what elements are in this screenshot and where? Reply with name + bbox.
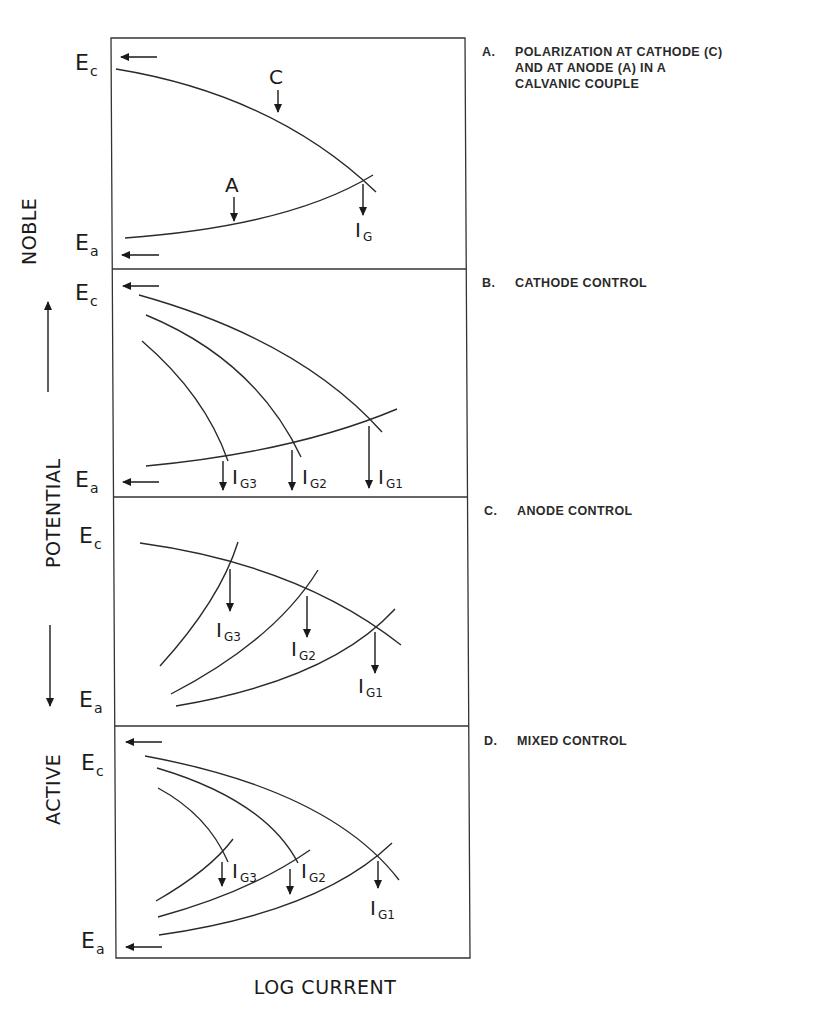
svg-text:I: I (358, 674, 364, 698)
svg-text:a: a (90, 480, 99, 496)
svg-text:I: I (355, 218, 361, 242)
ig1-label: I G1 (370, 896, 395, 922)
y-axis: NOBLE POTENTIAL ACTIVE E c E a E c E a E… (18, 50, 105, 957)
svg-text:I: I (232, 465, 238, 489)
caption-line: MIXED CONTROL (517, 733, 627, 749)
caption-panel-b: B. CATHODE CONTROL (482, 275, 647, 291)
caption-line: CATHODE CONTROL (515, 275, 647, 291)
svg-text:I: I (216, 618, 222, 642)
panel-d: I G3 I G2 I G1 (126, 742, 399, 947)
ig-label: I G (355, 218, 372, 244)
cathode-curve-2 (146, 315, 301, 457)
panel-a: C A I G (116, 57, 376, 255)
caption-panel-c: C. ANODE CONTROL (484, 503, 633, 519)
cathode-curve-3 (142, 341, 228, 461)
svg-text:E: E (79, 687, 93, 712)
svg-text:G2: G2 (299, 649, 316, 663)
svg-text:G1: G1 (366, 686, 383, 700)
anode-curve (146, 409, 397, 466)
svg-text:I: I (291, 637, 297, 661)
caption-line: POLARIZATION AT CATHODE (C) (515, 44, 723, 60)
cathode-curve-1 (145, 756, 399, 880)
svg-text:E: E (75, 230, 89, 255)
caption-line: AND AT ANODE (A) IN A (515, 60, 723, 76)
caption-line: ANODE CONTROL (517, 503, 633, 519)
svg-text:I: I (301, 859, 307, 883)
ig3-label: I G3 (232, 859, 257, 885)
ig2-label: I G2 (301, 859, 326, 885)
cathode-curve (116, 69, 376, 192)
svg-text:c: c (94, 536, 102, 552)
caption-line: CALVANIC COUPLE (515, 76, 723, 92)
caption-panel-a: A. POLARIZATION AT CATHODE (C) AND AT AN… (482, 44, 723, 92)
polarization-diagram: NOBLE POTENTIAL ACTIVE E c E a E c E a E… (0, 0, 821, 1015)
svg-text:I: I (232, 859, 238, 883)
svg-text:G3: G3 (240, 871, 257, 885)
svg-text:a: a (96, 941, 105, 957)
x-axis-label: LOG CURRENT (254, 976, 397, 998)
svg-text:c: c (90, 293, 98, 309)
svg-text:G2: G2 (309, 871, 326, 885)
caption-panel-d: D. MIXED CONTROL (484, 733, 627, 749)
svg-text:E: E (79, 523, 93, 548)
svg-text:I: I (302, 465, 308, 489)
cathode-curve-3 (158, 788, 228, 862)
panel-c: I G3 I G2 I G1 (140, 542, 401, 706)
svg-text:G2: G2 (310, 477, 327, 491)
noble-label: NOBLE (18, 198, 40, 265)
ig1-label: I G1 (378, 465, 403, 491)
svg-text:a: a (94, 700, 103, 716)
panel-b: I G3 I G2 I G1 (123, 286, 403, 491)
cathode-curve-1 (139, 295, 382, 432)
svg-text:G1: G1 (378, 908, 395, 922)
anode-curve (125, 175, 373, 238)
svg-text:c: c (96, 763, 104, 779)
svg-text:a: a (90, 243, 99, 259)
ig2-label: I G2 (302, 465, 327, 491)
anode-curve-1 (159, 843, 392, 935)
caption-letter: D. (484, 733, 517, 749)
potential-label: POTENTIAL (42, 458, 64, 568)
ea-label-a: E a (75, 230, 99, 259)
caption-letter: A. (482, 44, 515, 60)
ec-label-c: E c (79, 523, 102, 552)
svg-text:I: I (378, 465, 384, 489)
ea-label-c: E a (79, 687, 103, 716)
ig2-label: I G2 (291, 637, 316, 663)
svg-text:G3: G3 (240, 477, 257, 491)
ec-label-d: E c (81, 750, 104, 779)
svg-text:c: c (90, 63, 98, 79)
ig3-label: I G3 (232, 465, 257, 491)
caption-letter: B. (482, 275, 515, 291)
svg-text:E: E (81, 928, 95, 953)
svg-text:E: E (75, 280, 89, 305)
anode-label: A (225, 173, 239, 197)
ec-label-b: E c (75, 280, 98, 309)
active-label: ACTIVE (42, 754, 64, 825)
svg-text:G: G (363, 230, 372, 244)
svg-text:G1: G1 (386, 477, 403, 491)
ea-label-d: E a (81, 928, 105, 957)
ec-label-a: E c (75, 50, 98, 79)
caption-letter: C. (484, 503, 517, 519)
ig3-label: I G3 (216, 618, 241, 644)
svg-text:I: I (370, 896, 376, 920)
svg-text:E: E (81, 750, 95, 775)
panel-frames (111, 38, 470, 958)
anode-curve-2 (171, 570, 318, 694)
svg-text:G3: G3 (224, 630, 241, 644)
cathode-label: C (269, 65, 283, 89)
cathode-curve (140, 543, 401, 645)
svg-text:E: E (75, 50, 89, 75)
ig1-label: I G1 (358, 674, 383, 700)
ea-label-b: E a (75, 467, 99, 496)
svg-text:E: E (75, 467, 89, 492)
cathode-curve-2 (157, 768, 298, 863)
